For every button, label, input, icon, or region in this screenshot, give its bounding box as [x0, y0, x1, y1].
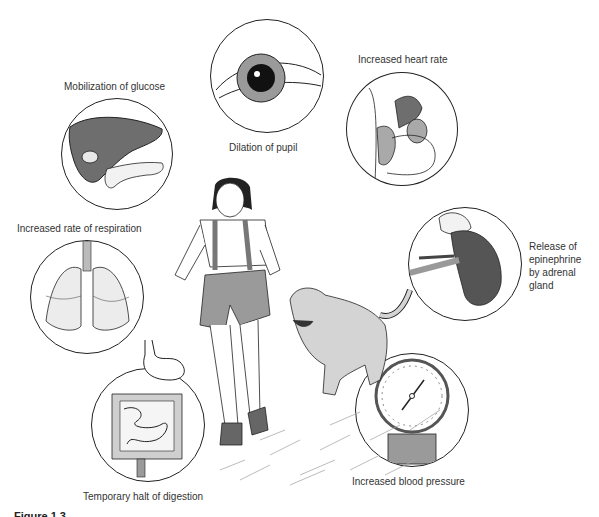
liver-pancreas-illustration — [61, 98, 173, 210]
eye-illustration — [210, 19, 324, 133]
heart-illustration — [346, 72, 458, 186]
label-respiration: Increased rate of respiration — [17, 222, 142, 235]
adrenal-kidney-illustration — [408, 207, 522, 321]
lungs-illustration — [30, 240, 144, 354]
label-pupil: Dilation of pupil — [229, 141, 297, 154]
label-heart: Increased heart rate — [358, 53, 448, 66]
grass-ground-illustration — [200, 370, 480, 490]
label-epinephrine: Release of epinephrine by adrenal gland — [529, 240, 589, 292]
figure-caption: Figure 1.3 — [14, 509, 66, 517]
label-glucose: Mobilization of glucose — [64, 80, 165, 93]
label-digestion: Temporary halt of digestion — [83, 490, 203, 503]
